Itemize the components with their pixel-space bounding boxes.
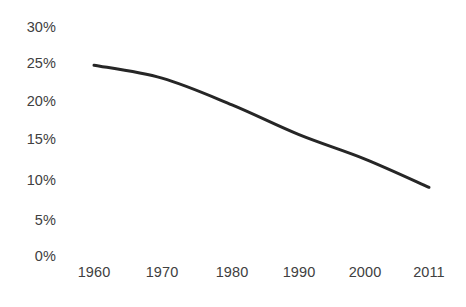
x-tick-label-2011: 2011 xyxy=(413,264,445,280)
x-tick-label-1980: 1980 xyxy=(216,264,249,280)
x-axis: 1960 1970 1980 1990 2000 2011 xyxy=(0,0,466,307)
x-tick-label-1970: 1970 xyxy=(146,264,179,280)
x-tick-label-2000: 2000 xyxy=(349,264,382,280)
x-tick-label-1960: 1960 xyxy=(78,264,111,280)
x-tick-label-1990: 1990 xyxy=(283,264,316,280)
line-chart: 30% 25% 20% 15% 10% 5% 0% 1960 1970 1980… xyxy=(0,0,466,307)
